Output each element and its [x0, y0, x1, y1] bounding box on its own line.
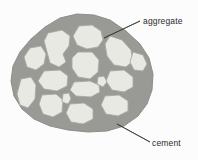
concrete-diagram-figure: aggregate cement	[0, 0, 198, 160]
cement-label: cement	[152, 138, 181, 148]
concrete-cross-section-illustration: aggregate cement	[0, 0, 198, 160]
aggregate-particle	[66, 103, 93, 124]
aggregate-label: aggregate	[143, 16, 183, 26]
aggregate-particle	[39, 94, 63, 117]
aggregate-particle	[70, 81, 100, 97]
aggregate-particle	[101, 95, 128, 116]
